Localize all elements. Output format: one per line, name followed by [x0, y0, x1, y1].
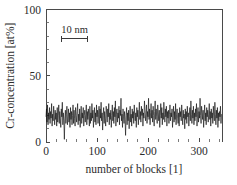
- x-axis-tick-labels: 0100200300: [43, 145, 208, 157]
- scale-bar-label: 10 nm: [61, 24, 88, 35]
- y-tick-label: 50: [30, 70, 42, 82]
- x-axis-ticks: [46, 138, 219, 142]
- x-tick-label: 0: [43, 145, 49, 157]
- x-tick-label: 100: [88, 145, 106, 157]
- x-tick-label: 200: [139, 145, 157, 157]
- chart-figure: 050100 0100200300 10 nm number of blocks…: [0, 0, 237, 185]
- y-tick-label: 0: [35, 136, 41, 148]
- y-axis-title: Cr-concentration [at%]: [4, 23, 16, 129]
- y-tick-label: 100: [24, 4, 42, 16]
- cr-concentration-chart: 050100 0100200300 10 nm number of blocks…: [0, 0, 237, 185]
- x-axis-title: number of blocks [1]: [86, 163, 183, 175]
- data-series: [46, 98, 221, 139]
- x-tick-label: 300: [190, 145, 208, 157]
- scale-bar-annotation: 10 nm: [61, 24, 88, 42]
- y-axis-tick-labels: 050100: [24, 4, 42, 149]
